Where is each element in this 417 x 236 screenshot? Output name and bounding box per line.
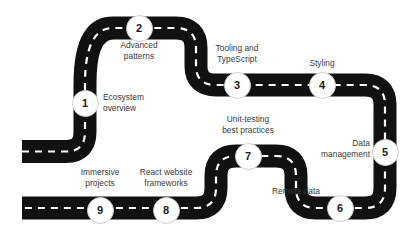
milestone-number: 8 — [163, 204, 169, 216]
step-label-6: Remote data — [248, 186, 320, 197]
milestone-node-5[interactable]: 5 — [372, 139, 399, 166]
milestone-node-3[interactable]: 3 — [224, 72, 251, 99]
milestone-node-4[interactable]: 4 — [309, 72, 336, 99]
milestone-node-8[interactable]: 8 — [153, 197, 180, 224]
milestone-number: 6 — [337, 202, 343, 214]
step-label-9: Immersive projects — [62, 167, 138, 188]
milestone-node-6[interactable]: 6 — [327, 195, 354, 222]
milestone-number: 1 — [82, 97, 88, 109]
milestone-number: 3 — [234, 79, 240, 91]
milestone-number: 7 — [245, 150, 251, 162]
step-label-5: Data management — [306, 138, 370, 159]
milestone-number: 4 — [319, 79, 325, 91]
step-label-2: Advanced patterns — [100, 40, 178, 61]
milestone-node-2[interactable]: 2 — [126, 15, 153, 42]
milestone-number: 2 — [136, 22, 142, 34]
milestone-node-7[interactable]: 7 — [235, 143, 262, 170]
step-label-3: Tooling and TypeScript — [202, 43, 272, 64]
milestone-node-1[interactable]: 1 — [72, 90, 99, 117]
step-label-7: Unit-testing best practices — [207, 114, 289, 135]
milestone-number: 5 — [382, 146, 388, 158]
step-label-1: Ecosystem overview — [103, 92, 175, 113]
roadmap-diagram: 1 Ecosystem overview 2 Advanced patterns… — [0, 0, 417, 236]
milestone-node-9[interactable]: 9 — [87, 197, 114, 224]
step-label-4: Styling — [296, 58, 348, 69]
milestone-number: 9 — [97, 204, 103, 216]
